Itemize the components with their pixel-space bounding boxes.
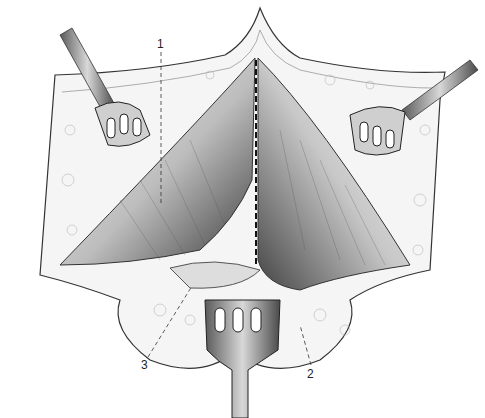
label-3: 3 [141,359,148,371]
illustration-drawing [0,0,485,418]
label-1: 1 [157,38,164,50]
surgical-illustration: 1 2 3 [0,0,485,418]
label-2: 2 [307,368,314,380]
